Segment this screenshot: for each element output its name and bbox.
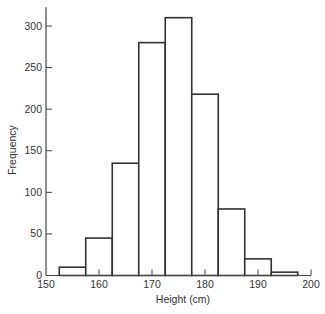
x-tick-label: 170 <box>143 278 161 290</box>
y-axis-label: Frequency <box>6 124 18 174</box>
y-tick-label: 200 <box>24 103 42 115</box>
histogram-bar <box>139 43 166 276</box>
y-tick-label: 250 <box>24 61 42 73</box>
histogram-bar <box>165 18 192 276</box>
histogram-bar <box>112 163 139 275</box>
histogram-bars <box>59 18 298 276</box>
histogram-bar <box>218 209 245 276</box>
x-tick-label: 190 <box>249 278 267 290</box>
y-tick-label: 150 <box>24 144 42 156</box>
y-tick-label: 100 <box>24 186 42 198</box>
x-tick-label: 150 <box>37 278 55 290</box>
histogram-bar <box>59 267 86 275</box>
histogram-bar <box>192 94 219 275</box>
x-tick-label: 180 <box>196 278 214 290</box>
x-tick-label: 200 <box>302 278 320 290</box>
histogram-chart: 050100150200250300 150160170180190200 Fr… <box>0 0 325 314</box>
y-axis-ticks: 050100150200250300 <box>24 20 52 282</box>
y-tick-label: 50 <box>30 227 42 239</box>
x-tick-label: 160 <box>90 278 108 290</box>
x-axis-label: Height (cm) <box>156 293 210 305</box>
y-tick-label: 300 <box>24 20 42 32</box>
